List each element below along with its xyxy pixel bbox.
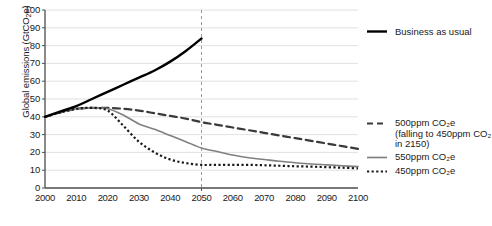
emissions-line-chart: Global emissions (GtCO2e) 01020304050607… <box>0 0 492 226</box>
legend-item-500ppm-label: 500ppm CO₂e (falling to 450ppm CO₂ in 21… <box>395 118 491 150</box>
legend-item-450ppm: 450ppm CO₂e <box>366 166 491 177</box>
legend-item-500ppm: 500ppm CO₂e (falling to 450ppm CO₂ in 21… <box>366 118 491 150</box>
legend-item-450ppm-label: 450ppm CO₂e <box>395 166 455 177</box>
solid-black-line-icon <box>366 26 388 37</box>
series-line-0 <box>45 38 202 116</box>
legend-item-550ppm: 550ppm CO₂e <box>366 152 491 163</box>
legend-scenarios: 500ppm CO₂e (falling to 450ppm CO₂ in 21… <box>366 118 491 178</box>
dotted-line-icon <box>366 166 388 177</box>
legend-500ppm-line1: 500ppm CO₂e <box>395 117 455 128</box>
legend-item-550ppm-label: 550ppm CO₂e <box>395 152 455 163</box>
dashed-line-icon <box>366 118 388 129</box>
legend-500ppm-line3: in 2150) <box>395 138 429 149</box>
solid-gray-line-icon <box>366 152 388 163</box>
legend-500ppm-line2: (falling to 450ppm CO₂ <box>395 128 491 139</box>
legend-business-as-usual-label: Business as usual <box>395 26 472 37</box>
legend-business-as-usual: Business as usual <box>366 26 472 37</box>
